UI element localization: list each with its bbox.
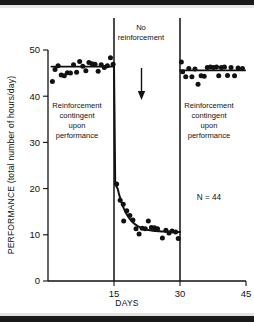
right-annotation-line4: performance: [188, 131, 231, 140]
extinction-decay: [114, 67, 180, 232]
x-tick-label: 15: [109, 288, 120, 299]
y-tick-label: 40: [29, 91, 40, 102]
data-point: [134, 226, 139, 231]
data-point: [77, 59, 82, 64]
left-annotation-line3: upon: [69, 121, 86, 130]
x-tick-label: 30: [175, 288, 186, 299]
data-point: [56, 63, 61, 68]
series-recovery: [179, 60, 245, 87]
data-point: [50, 79, 55, 84]
data-point: [96, 69, 101, 74]
y-tick-label: 30: [29, 137, 40, 148]
sample-size-label: N = 44: [197, 193, 222, 202]
left-annotation-line1: Reinforcement: [52, 101, 102, 110]
data-point: [74, 70, 79, 75]
series-baseline: [50, 55, 116, 84]
data-point: [121, 202, 126, 207]
data-point: [83, 68, 88, 73]
data-point: [222, 65, 227, 70]
right-annotation-line2: contingent: [191, 111, 227, 120]
data-point: [111, 62, 116, 67]
x-axis-tick-labels: 153045: [109, 288, 252, 299]
fit-lines-group: [52, 67, 246, 232]
data-point: [137, 231, 142, 236]
data-point: [108, 55, 113, 60]
y-axis-title: PERFORMANCE (total number of hours/day): [6, 76, 16, 254]
y-tick-label: 50: [29, 44, 40, 55]
data-point: [68, 71, 73, 76]
chart-area: 01020304050 153045 DAYS PERFORMANCE (tot…: [0, 8, 254, 316]
data-point: [240, 66, 245, 71]
data-points-group: [50, 55, 245, 241]
data-point: [192, 66, 197, 71]
data-point: [229, 65, 234, 70]
data-point: [186, 66, 191, 71]
data-point: [80, 64, 85, 69]
data-point: [232, 73, 237, 78]
data-point: [93, 62, 98, 67]
y-axis-ticks: [43, 50, 48, 281]
data-point: [196, 82, 201, 87]
right-annotation-line1: Reinforcement: [184, 101, 234, 110]
left-annotation-line2: contingent: [59, 111, 95, 120]
data-point: [202, 74, 207, 79]
y-axis-tick-labels: 01020304050: [29, 44, 40, 286]
data-point: [216, 73, 221, 78]
down-arrow-icon: [138, 68, 145, 100]
x-axis-title: DAYS: [115, 298, 138, 308]
performance-extinction-chart: 01020304050 153045 DAYS PERFORMANCE (tot…: [0, 8, 254, 316]
data-point: [143, 226, 148, 231]
data-point: [173, 230, 178, 235]
data-point: [214, 65, 219, 70]
right-annotation-line3: upon: [201, 121, 218, 130]
data-point: [114, 181, 119, 186]
data-point: [179, 60, 184, 65]
x-tick-label: 45: [241, 288, 252, 299]
data-point: [124, 208, 129, 213]
data-point: [180, 69, 185, 74]
data-point: [127, 213, 132, 218]
no-reinforcement-label-line1: No: [136, 23, 146, 32]
data-point: [225, 73, 230, 78]
y-tick-label: 20: [29, 183, 40, 194]
data-point: [189, 74, 194, 79]
right-phase-annotation: Reinforcement contingent upon performanc…: [184, 101, 234, 140]
axes-group: [48, 50, 246, 281]
data-point: [71, 62, 76, 67]
no-reinforcement-label-line2: reinforcement: [118, 33, 165, 42]
y-tick-label: 0: [35, 275, 40, 286]
data-point: [176, 236, 181, 241]
phase-divider-lines: [114, 18, 180, 281]
data-point: [160, 236, 165, 241]
scan-band-bottom: [0, 316, 254, 322]
data-point: [105, 63, 110, 68]
data-point: [155, 226, 160, 231]
x-axis-ticks: [114, 281, 246, 286]
data-point: [183, 74, 188, 79]
left-annotation-line4: performance: [56, 131, 99, 140]
data-point: [236, 66, 241, 71]
data-point: [130, 218, 135, 223]
data-point: [121, 218, 126, 223]
data-point: [146, 218, 151, 223]
data-point: [118, 198, 123, 203]
left-phase-annotation: Reinforcement contingent upon performanc…: [52, 101, 102, 140]
y-tick-label: 10: [29, 229, 40, 240]
figure-screenshot: 01020304050 153045 DAYS PERFORMANCE (tot…: [0, 0, 254, 322]
